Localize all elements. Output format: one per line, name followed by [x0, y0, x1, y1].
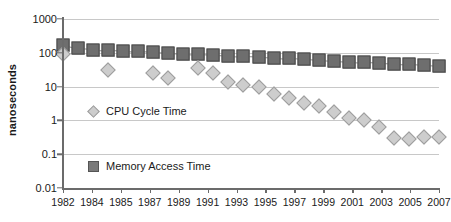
x-axis-tick-mark [179, 188, 180, 193]
x-axis-tick-label: 1991 [196, 196, 219, 208]
x-axis-tick-label: 1982 [51, 196, 74, 208]
diamond-marker-icon [87, 105, 100, 118]
x-axis-tick-mark [410, 188, 411, 193]
x-axis-tick-mark [439, 188, 440, 193]
x-axis-tick-mark [208, 188, 209, 193]
x-axis-tick-mark [265, 188, 266, 193]
x-axis-tick-mark [323, 188, 324, 193]
x-axis-tick-mark [121, 188, 122, 193]
legend-item-memory-access-time: Memory Access Time [88, 160, 211, 172]
x-axis-tick-label: 2001 [341, 196, 364, 208]
x-axis-tick-mark [92, 188, 93, 193]
x-axis-tick-label: 1989 [167, 196, 190, 208]
legend-label-memory-access-time: Memory Access Time [106, 160, 211, 172]
x-axis-tick-label: 1997 [283, 196, 306, 208]
x-axis-tick-label: 2003 [369, 196, 392, 208]
x-axis-tick-label: 1993 [225, 196, 248, 208]
x-axis-tick-mark [150, 188, 151, 193]
x-axis-tick-mark [237, 188, 238, 193]
x-axis-tick-mark [352, 188, 353, 193]
legend-item-cpu-cycle-time: CPU Cycle Time [88, 105, 187, 117]
x-axis-tick-mark [63, 188, 64, 193]
x-axis-tick-mark [381, 188, 382, 193]
x-axis-tick-label: 1987 [138, 196, 161, 208]
x-axis-tick-label: 2005 [398, 196, 421, 208]
x-axis-tick-label: 1984 [80, 196, 103, 208]
x-axis-tick-label: 1985 [109, 196, 132, 208]
x-axis-tick-label: 1999 [312, 196, 335, 208]
legend-label-cpu-cycle-time: CPU Cycle Time [106, 105, 187, 117]
x-axis-tick-mark [294, 188, 295, 193]
x-axis-tick-label: 2007 [427, 196, 450, 208]
square-marker-icon [88, 161, 99, 172]
x-axis-tick-label: 1995 [254, 196, 277, 208]
